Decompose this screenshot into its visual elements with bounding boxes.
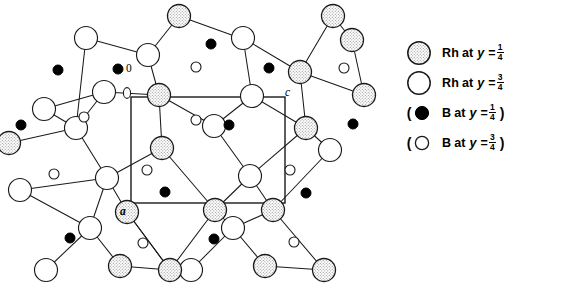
legend-variable: y xyxy=(468,136,477,150)
legend-equals: = xyxy=(481,106,488,120)
legend-fraction: 14 xyxy=(489,103,496,121)
legend: Rhaty=14 Rhaty=34 ( Baty=14) xyxy=(396,38,556,158)
legend-item-b-three-quarter: ( Baty=34) xyxy=(396,128,556,158)
legend-species: Rh xyxy=(442,46,459,60)
legend-species: Rh xyxy=(442,76,459,90)
legend-at: at xyxy=(454,106,465,120)
legend-equals: = xyxy=(488,46,495,60)
axis-label-a: a xyxy=(120,205,126,217)
legend-variable: y xyxy=(468,106,477,120)
legend-swatch-b-filled: ( xyxy=(396,104,442,122)
legend-label-rh-quarter: Rhaty=14 xyxy=(442,44,505,62)
legend-open-paren: ( xyxy=(407,136,412,150)
legend-fraction: 34 xyxy=(497,73,504,91)
legend-swatch-rh-shaded xyxy=(396,40,442,66)
small-open-circle-icon xyxy=(413,134,431,152)
crystal-structure-figure: 0 c a Rhaty=14 xyxy=(0,0,563,301)
legend-item-rh-quarter: Rhaty=14 xyxy=(396,38,556,68)
legend-close-paren: ) xyxy=(500,106,505,120)
legend-equals: = xyxy=(488,76,495,90)
legend-swatch-rh-open xyxy=(396,70,442,96)
legend-at: at xyxy=(462,46,473,60)
legend-label-b-quarter: Baty=14) xyxy=(442,104,505,122)
large-open-circle-icon xyxy=(406,70,432,96)
legend-variable: y xyxy=(476,46,485,60)
legend-label-b-three-quarter: Baty=34) xyxy=(442,134,505,152)
legend-item-b-quarter: ( Baty=14) xyxy=(396,98,556,128)
legend-equals: = xyxy=(481,136,488,150)
legend-at: at xyxy=(454,136,465,150)
legend-close-paren: ) xyxy=(500,136,505,150)
legend-open-paren: ( xyxy=(407,106,412,120)
legend-item-rh-three-quarter: Rhaty=34 xyxy=(396,68,556,98)
small-filled-circle-icon xyxy=(413,104,431,122)
origin-label: 0 xyxy=(126,62,132,74)
legend-swatch-b-open: ( xyxy=(396,134,442,152)
legend-species: B xyxy=(442,106,451,120)
legend-fraction: 34 xyxy=(489,133,496,151)
legend-label-rh-three-quarter: Rhaty=34 xyxy=(442,74,505,92)
large-shaded-circle-icon xyxy=(406,40,432,66)
axis-label-c: c xyxy=(285,86,290,98)
legend-variable: y xyxy=(476,76,485,90)
legend-fraction: 14 xyxy=(497,43,504,61)
legend-at: at xyxy=(462,76,473,90)
legend-species: B xyxy=(442,136,451,150)
